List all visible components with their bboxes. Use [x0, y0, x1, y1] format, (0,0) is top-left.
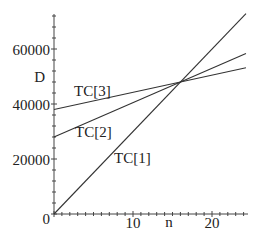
y-tick-60000: 60000 [13, 42, 51, 58]
y-axis-symbol-d: D [34, 69, 45, 85]
series-lines [54, 14, 246, 214]
x-axis-symbol-n: n [165, 214, 173, 230]
x-tick-20: 20 [205, 215, 220, 231]
x-tick-10: 10 [126, 215, 141, 231]
y-tick-40000: 40000 [13, 97, 51, 113]
series-label-tc1: TC[1] [114, 150, 151, 166]
series-label-tc3: TC[3] [74, 83, 111, 99]
y-tick-20000: 20000 [13, 152, 51, 168]
series-line-tc1 [54, 14, 246, 214]
chart: 60000 D 40000 20000 0 10 n 20 TC[3] TC[2… [0, 0, 257, 233]
series-label-tc2: TC[2] [75, 124, 112, 140]
origin-label: 0 [43, 211, 51, 227]
